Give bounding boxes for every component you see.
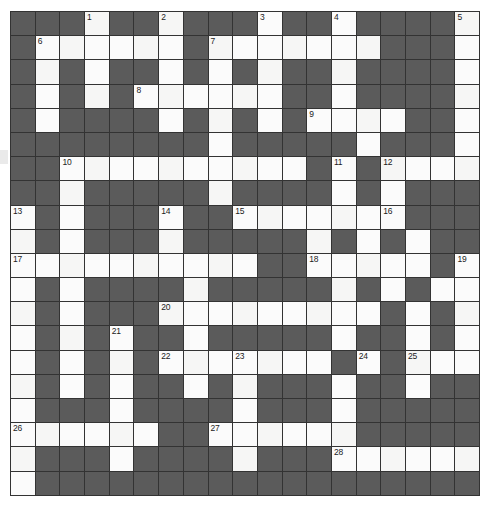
grid-cell-open[interactable] <box>331 181 356 205</box>
grid-cell-open[interactable] <box>183 278 208 302</box>
grid-cell-open[interactable] <box>159 253 184 277</box>
grid-cell-open[interactable] <box>381 181 406 205</box>
grid-cell-open[interactable]: 7 <box>208 36 233 60</box>
grid-cell-open[interactable] <box>381 278 406 302</box>
grid-cell-open[interactable] <box>257 36 282 60</box>
grid-cell-open[interactable]: 21 <box>109 326 134 350</box>
grid-cell-open[interactable] <box>430 157 455 181</box>
grid-cell-open[interactable] <box>109 423 134 447</box>
grid-cell-open[interactable] <box>257 302 282 326</box>
grid-cell-open[interactable] <box>257 423 282 447</box>
grid-cell-open[interactable] <box>406 326 431 350</box>
grid-cell-open[interactable] <box>455 36 480 60</box>
grid-cell-open[interactable] <box>406 157 431 181</box>
grid-cell-open[interactable] <box>282 350 307 374</box>
grid-cell-open[interactable] <box>159 84 184 108</box>
grid-cell-open[interactable] <box>11 278 36 302</box>
grid-cell-open[interactable] <box>356 36 381 60</box>
grid-cell-open[interactable] <box>282 157 307 181</box>
grid-cell-open[interactable] <box>356 132 381 156</box>
grid-cell-open[interactable] <box>159 60 184 84</box>
grid-cell-open[interactable]: 22 <box>159 350 184 374</box>
grid-cell-open[interactable] <box>455 132 480 156</box>
grid-cell-open[interactable] <box>60 229 85 253</box>
grid-cell-open[interactable] <box>208 302 233 326</box>
grid-cell-open[interactable] <box>159 157 184 181</box>
grid-cell-open[interactable]: 26 <box>11 423 36 447</box>
grid-cell-open[interactable] <box>60 350 85 374</box>
grid-cell-open[interactable] <box>331 326 356 350</box>
grid-cell-open[interactable] <box>11 471 36 495</box>
grid-cell-open[interactable] <box>60 278 85 302</box>
grid-cell-open[interactable] <box>35 423 60 447</box>
grid-cell-open[interactable] <box>307 350 332 374</box>
grid-cell-open[interactable] <box>406 447 431 471</box>
grid-cell-open[interactable] <box>134 157 159 181</box>
grid-cell-open[interactable]: 2 <box>159 12 184 36</box>
grid-cell-open[interactable] <box>183 350 208 374</box>
grid-cell-open[interactable] <box>233 253 258 277</box>
grid-cell-open[interactable] <box>11 374 36 398</box>
grid-cell-open[interactable] <box>430 350 455 374</box>
grid-cell-open[interactable]: 8 <box>134 84 159 108</box>
grid-cell-open[interactable] <box>257 84 282 108</box>
grid-cell-open[interactable] <box>85 84 110 108</box>
grid-cell-open[interactable] <box>307 423 332 447</box>
grid-cell-open[interactable]: 28 <box>331 447 356 471</box>
grid-cell-open[interactable] <box>257 157 282 181</box>
grid-cell-open[interactable]: 16 <box>381 205 406 229</box>
grid-cell-open[interactable] <box>35 253 60 277</box>
grid-cell-open[interactable] <box>11 302 36 326</box>
grid-cell-open[interactable] <box>109 36 134 60</box>
grid-cell-open[interactable]: 4 <box>331 12 356 36</box>
grid-cell-open[interactable]: 15 <box>233 205 258 229</box>
grid-cell-open[interactable] <box>455 84 480 108</box>
grid-cell-open[interactable] <box>85 36 110 60</box>
grid-cell-open[interactable] <box>331 302 356 326</box>
grid-cell-open[interactable] <box>233 423 258 447</box>
grid-cell-open[interactable]: 20 <box>159 302 184 326</box>
grid-cell-open[interactable] <box>183 374 208 398</box>
grid-cell-open[interactable] <box>109 447 134 471</box>
grid-cell-open[interactable] <box>35 60 60 84</box>
grid-cell-open[interactable] <box>430 278 455 302</box>
grid-cell-open[interactable]: 9 <box>307 108 332 132</box>
grid-cell-open[interactable]: 24 <box>356 350 381 374</box>
grid-cell-open[interactable] <box>282 423 307 447</box>
grid-cell-open[interactable] <box>11 399 36 423</box>
grid-cell-open[interactable] <box>455 60 480 84</box>
grid-cell-open[interactable]: 27 <box>208 423 233 447</box>
grid-cell-open[interactable] <box>406 374 431 398</box>
grid-cell-open[interactable] <box>356 205 381 229</box>
grid-cell-open[interactable] <box>430 447 455 471</box>
grid-cell-open[interactable] <box>356 108 381 132</box>
grid-cell-open[interactable]: 11 <box>331 157 356 181</box>
grid-cell-open[interactable] <box>455 350 480 374</box>
grid-cell-open[interactable] <box>257 205 282 229</box>
grid-cell-open[interactable] <box>331 205 356 229</box>
grid-cell-open[interactable]: 10 <box>60 157 85 181</box>
grid-cell-open[interactable]: 23 <box>233 350 258 374</box>
grid-cell-open[interactable]: 25 <box>406 350 431 374</box>
grid-cell-open[interactable] <box>60 302 85 326</box>
grid-cell-open[interactable] <box>134 36 159 60</box>
crossword-grid[interactable]: 1234567891011121314151617181920212223242… <box>10 11 480 496</box>
grid-cell-open[interactable] <box>307 36 332 60</box>
grid-cell-open[interactable] <box>381 447 406 471</box>
grid-cell-open[interactable] <box>455 302 480 326</box>
grid-cell-open[interactable] <box>11 326 36 350</box>
grid-cell-open[interactable] <box>208 157 233 181</box>
grid-cell-open[interactable] <box>208 60 233 84</box>
grid-cell-open[interactable] <box>233 84 258 108</box>
grid-cell-open[interactable] <box>257 350 282 374</box>
grid-cell-open[interactable]: 17 <box>11 253 36 277</box>
grid-cell-open[interactable] <box>183 84 208 108</box>
grid-cell-open[interactable] <box>60 326 85 350</box>
grid-cell-open[interactable]: 18 <box>307 253 332 277</box>
grid-cell-open[interactable] <box>60 181 85 205</box>
grid-cell-open[interactable] <box>60 36 85 60</box>
grid-cell-open[interactable] <box>35 108 60 132</box>
grid-cell-open[interactable] <box>307 205 332 229</box>
grid-cell-open[interactable] <box>381 253 406 277</box>
grid-cell-open[interactable] <box>331 36 356 60</box>
